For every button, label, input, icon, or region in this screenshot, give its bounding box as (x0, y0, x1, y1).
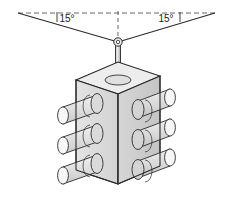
port-right-upper-opening (165, 89, 176, 106)
port-left-upper-flange (91, 94, 103, 114)
port-left-middle-flange (91, 124, 103, 144)
suspension-eyelet-bore (116, 40, 119, 43)
box-top-boss (105, 75, 131, 85)
port-left-middle-opening (58, 137, 69, 154)
angle-label-right: 15° (158, 13, 173, 24)
port-left-lower-flange (91, 154, 103, 174)
port-right-upper-flange (132, 100, 144, 120)
angle-label-left: 15° (59, 13, 74, 24)
port-left-lower-opening (58, 167, 69, 184)
port-right-lower-flange (132, 160, 144, 180)
reference-geometry-group: 15° 15° (18, 11, 215, 42)
port-right-lower-opening (165, 149, 176, 166)
figure-root: 15° 15° (0, 0, 228, 208)
port-right-middle-flange (132, 130, 144, 150)
junction-box-group (58, 62, 176, 184)
port-left-upper-opening (58, 107, 69, 124)
isometric-drawing-canvas: 15° 15° (0, 0, 228, 208)
port-right-middle-opening (165, 119, 176, 136)
